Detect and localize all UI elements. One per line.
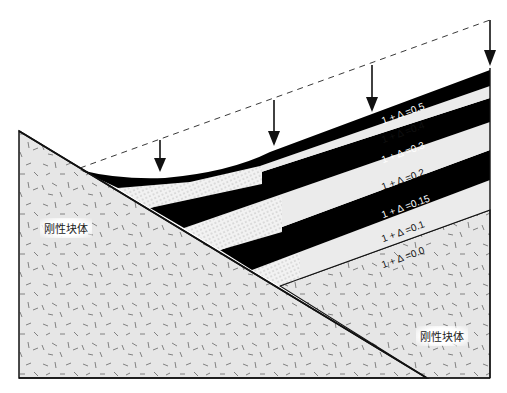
arrow-down-icon bbox=[268, 100, 280, 146]
arrow-down-icon bbox=[366, 65, 378, 112]
arrow-down-icon bbox=[154, 140, 166, 172]
right-block-label: 刚性块体 bbox=[416, 326, 468, 346]
left-block-label: 刚性块体 bbox=[40, 218, 92, 238]
arrow-down-icon bbox=[484, 20, 496, 66]
